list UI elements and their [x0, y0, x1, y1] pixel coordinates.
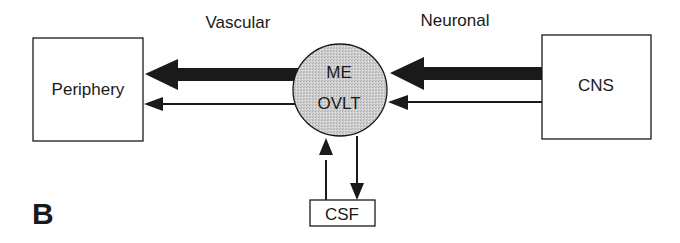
thin-vascular-arrow — [144, 97, 296, 111]
thick-vascular-arrow — [145, 59, 300, 90]
cns-node: CNS — [542, 35, 651, 139]
thin-neuronal-arrow — [388, 95, 542, 110]
me-label: ME — [326, 63, 352, 82]
thick-neuronal-arrow — [390, 57, 542, 90]
cns-label: CNS — [578, 76, 614, 95]
me-ovlt-node: ME OVLT — [293, 44, 387, 136]
center-to-csf-arrow — [350, 136, 364, 200]
periphery-node: Periphery — [33, 38, 143, 141]
neuronal-heading: Neuronal — [421, 11, 490, 30]
csf-node: CSF — [310, 200, 375, 226]
diagram-canvas: Vascular Neuronal Periphery CNS ME OVLT — [0, 0, 680, 243]
panel-label: B — [32, 197, 54, 230]
csf-label: CSF — [325, 205, 359, 224]
periphery-label: Periphery — [52, 80, 125, 99]
vascular-heading: Vascular — [206, 13, 271, 32]
csf-to-center-arrow — [319, 138, 333, 200]
ovlt-label: OVLT — [317, 94, 360, 113]
